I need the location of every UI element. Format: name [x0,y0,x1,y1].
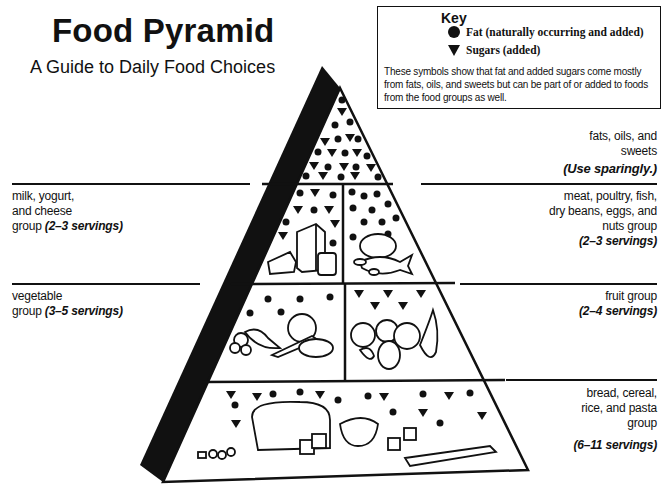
label-meat-group: meat, poultry, fish, dry beans, eggs, an… [549,189,657,249]
fats-servings: (Use sparingly.) [563,161,657,176]
fats-name-line1: fats, oils, and [563,129,657,144]
label-milk-group: milk, yogurt, and cheese group (2–3 serv… [12,189,123,234]
meat-name-line2: dry beans, eggs, and [549,204,657,219]
label-fruit-group: fruit group (2–4 servings) [579,289,657,319]
milk-servings: (2–3 servings) [45,219,123,233]
divider-vegetable [12,283,200,285]
vegetable-servings: (3–5 servings) [45,304,123,318]
divider-bread [506,379,657,381]
bread-name-line1: bread, cereal, [574,386,658,401]
meat-servings: (2–3 servings) [579,234,657,248]
milk-name-line1: milk, yogurt, [12,189,123,204]
fruit-name-line1: fruit group [579,289,657,304]
divider-meat [421,183,657,185]
vegetable-name-line1: vegetable [12,289,123,304]
fruit-servings: (2–4 servings) [579,304,657,318]
label-bread-group: bread, cereal, rice, and pasta group (6–… [574,386,658,453]
meat-name-line1: meat, poultry, fish, [549,189,657,204]
divider-milk [12,183,250,185]
milk-name-line2: and cheese [12,204,123,219]
bread-name-line2: rice, and pasta [574,401,658,416]
milk-name-line3: group [12,219,42,233]
vegetable-name-line2: group [12,304,42,318]
bread-servings: (6–11 servings) [574,438,658,452]
label-vegetable-group: vegetable group (3–5 servings) [12,289,123,319]
fats-name-line2: sweets [563,144,657,159]
bread-name-line3: group [574,416,658,431]
meat-name-line3: nuts group [549,219,657,234]
label-fats-group: fats, oils, and sweets (Use sparingly.) [563,129,657,176]
divider-fruit [460,283,657,285]
